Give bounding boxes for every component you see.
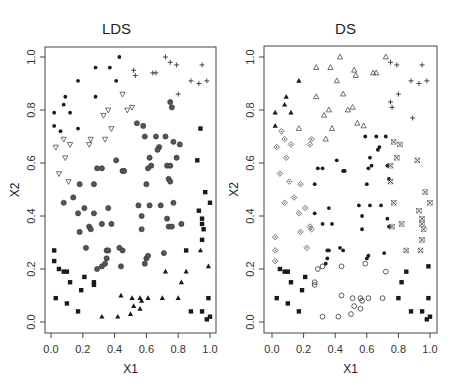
y-tick-label: 0.2 — [244, 261, 256, 276]
x-tick-label: 0.8 — [391, 343, 406, 355]
x-tick-label: 0.8 — [171, 343, 186, 355]
y-tick-label: 1.0 — [25, 49, 37, 64]
y-tick-label: 0.0 — [25, 314, 37, 329]
series-gray-circle — [61, 99, 184, 271]
y-tick-label: 0.0 — [244, 314, 256, 329]
series-plus — [388, 60, 429, 121]
y-tick-label: 0.4 — [25, 208, 37, 223]
y-tick-label: 0.8 — [25, 102, 37, 117]
series-tri-filled — [273, 78, 302, 128]
x-tick-label: 0.2 — [296, 343, 311, 355]
series-tri-open — [296, 54, 388, 141]
y-tick-label: 0.6 — [25, 155, 37, 170]
x-tick-label: 0.0 — [43, 343, 58, 355]
series-square — [52, 126, 212, 321]
series-circle — [312, 261, 388, 319]
x-tick-label: 0.6 — [139, 343, 154, 355]
series-tri-up — [99, 248, 211, 319]
y-tick-label: 0.2 — [25, 261, 37, 276]
y-axis-label: X2 — [8, 182, 22, 197]
series-dot — [313, 135, 391, 266]
x-tick-label: 0.2 — [75, 343, 90, 355]
x-axis-label: X1 — [343, 362, 358, 376]
y-tick-label: 1.0 — [244, 49, 256, 64]
series-dot — [52, 55, 121, 133]
series-plus — [131, 55, 209, 97]
y-tick-label: 0.4 — [244, 208, 256, 223]
y-tick-label: 0.8 — [244, 102, 256, 117]
plot-frame — [45, 47, 216, 333]
series-x — [388, 139, 432, 252]
x-tick-label: 0.6 — [359, 343, 374, 355]
x-axis-label: X1 — [123, 362, 138, 376]
y-axis-label: X2 — [229, 182, 241, 197]
x-tick-label: 1.0 — [202, 343, 217, 355]
panel-ds: DS 0.00.00.20.20.40.40.60.60.80.81.01.0X… — [229, 0, 458, 385]
x-tick-label: 1.0 — [422, 343, 437, 355]
x-tick-label: 0.4 — [107, 343, 122, 355]
scatter-plot-lds: 0.00.00.20.20.40.40.60.60.80.81.01.0X1X2 — [0, 0, 229, 385]
panel-lds: LDS 0.00.00.20.20.40.40.60.60.80.81.01.0… — [0, 0, 229, 385]
series-diamond — [272, 128, 314, 263]
x-tick-label: 0.4 — [328, 343, 343, 355]
plot-frame — [264, 46, 437, 333]
x-tick-label: 0.0 — [264, 343, 279, 355]
scatter-plot-ds: 0.00.00.20.20.40.40.60.60.80.81.01.0X1X2 — [229, 0, 458, 385]
y-tick-label: 0.6 — [244, 155, 256, 170]
